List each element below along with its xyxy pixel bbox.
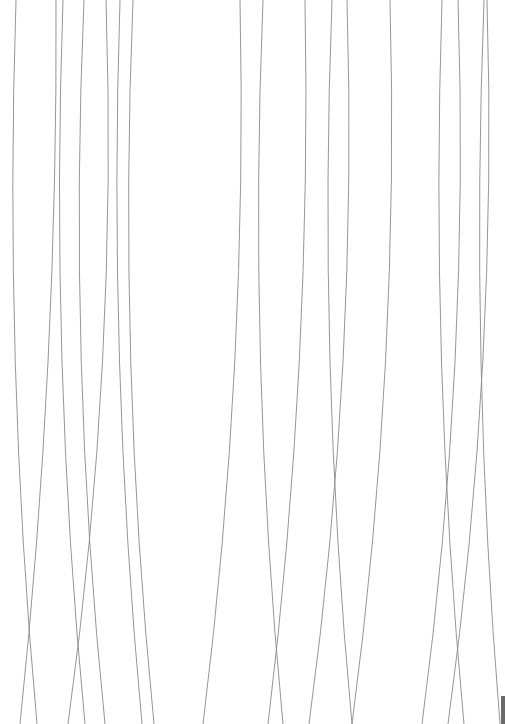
- curve-line: [68, 0, 108, 724]
- curve-line: [328, 0, 352, 724]
- curve-line: [259, 0, 284, 724]
- curve-line: [20, 0, 56, 724]
- curve-line: [13, 0, 37, 724]
- line-canvas: [0, 0, 505, 724]
- curve-line: [79, 0, 105, 724]
- curve-line: [352, 0, 392, 724]
- curve-line: [448, 0, 489, 724]
- curve-line: [203, 0, 241, 724]
- corner-mark: [501, 696, 505, 724]
